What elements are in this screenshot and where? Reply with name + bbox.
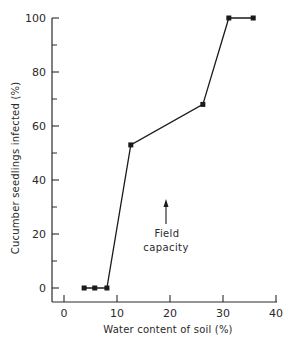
y-tick-label: 80 — [32, 66, 46, 79]
x-tick-label: 40 — [269, 307, 283, 320]
x-ticks — [64, 295, 276, 302]
data-point-marker — [251, 16, 256, 21]
arrow-up-icon — [164, 199, 169, 207]
annotation-line-1: Field — [154, 228, 179, 239]
x-tick-label: 30 — [216, 307, 230, 320]
y-axis-title: Cucumber seedlings infected (%) — [10, 82, 21, 255]
x-tick-labels: 0 10 20 30 40 — [61, 307, 284, 320]
x-tick-label: 10 — [110, 307, 124, 320]
data-point-marker — [226, 16, 231, 21]
axes — [52, 18, 277, 302]
y-tick-label: 20 — [32, 228, 46, 241]
field-capacity-annotation: Field capacity — [143, 199, 188, 253]
x-tick-label: 20 — [163, 307, 177, 320]
chart-canvas: 0 20 40 60 80 100 0 10 20 30 40 Water co… — [0, 0, 292, 348]
y-tick-labels: 0 20 40 60 80 100 — [25, 12, 46, 295]
annotation-line-2: capacity — [143, 242, 188, 253]
data-point-marker — [82, 286, 87, 291]
data-point-marker — [200, 102, 205, 107]
x-tick-label: 0 — [61, 307, 68, 320]
data-point-marker — [128, 142, 133, 147]
y-tick-label: 100 — [25, 12, 46, 25]
y-tick-label: 60 — [32, 120, 46, 133]
y-tick-label: 40 — [32, 174, 46, 187]
data-point-marker — [92, 286, 97, 291]
y-ticks — [52, 18, 59, 288]
y-tick-label: 0 — [39, 282, 46, 295]
data-point-marker — [104, 286, 109, 291]
x-axis-title: Water content of soil (%) — [103, 324, 232, 335]
